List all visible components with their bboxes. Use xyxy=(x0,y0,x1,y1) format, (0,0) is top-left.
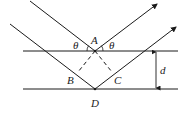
label-d: d xyxy=(160,64,166,76)
theta-arc-left xyxy=(87,46,89,51)
bragg-diagram: A θ θ B C D d xyxy=(0,0,188,114)
label-theta-left: θ xyxy=(73,39,79,51)
label-B: B xyxy=(67,74,74,86)
label-A: A xyxy=(90,34,98,46)
label-theta-right: θ xyxy=(109,39,115,51)
theta-arc-right xyxy=(101,46,103,51)
incident-ray-2 xyxy=(10,24,95,89)
reflected-ray-1 xyxy=(95,4,157,51)
dashed-line-AC xyxy=(95,51,112,72)
label-D: D xyxy=(90,97,99,109)
reflected-ray-2 xyxy=(95,27,176,89)
point-D xyxy=(94,88,97,91)
dashed-line-AB xyxy=(78,51,95,72)
incident-ray-1 xyxy=(30,1,95,51)
label-C: C xyxy=(114,74,122,86)
point-A xyxy=(94,50,97,53)
